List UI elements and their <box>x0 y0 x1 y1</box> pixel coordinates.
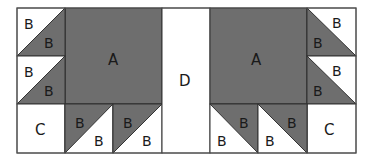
label-b: B <box>44 83 54 99</box>
label-b: B <box>217 133 227 149</box>
hst-left-bottom-2 <box>113 104 162 153</box>
label-b: B <box>332 63 342 79</box>
label-b: B <box>24 16 34 32</box>
label-c: C <box>35 121 45 139</box>
label-b: B <box>75 115 85 131</box>
hst-left-bottom-1 <box>65 104 113 153</box>
label-b: B <box>313 83 323 99</box>
label-b: B <box>265 133 275 149</box>
label-b: B <box>332 15 342 31</box>
label-c: C <box>324 121 334 139</box>
label-a: A <box>108 51 119 69</box>
label-b: B <box>287 115 297 131</box>
label-d: D <box>179 72 191 90</box>
label-b: B <box>142 133 152 149</box>
label-b: B <box>44 35 54 51</box>
label-b: B <box>94 133 104 149</box>
quilt-diagram: B B B B A C B B B B D A B B B B C B B B … <box>0 0 372 158</box>
label-b: B <box>239 115 249 131</box>
label-a: A <box>251 51 262 69</box>
label-b: B <box>313 35 323 51</box>
label-b: B <box>123 115 133 131</box>
label-b: B <box>24 64 34 80</box>
